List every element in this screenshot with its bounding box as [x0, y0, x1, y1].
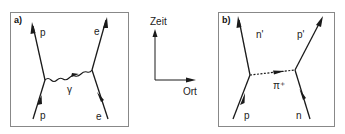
proton-out-line-b: [295, 20, 321, 70]
panel-b-frame: [219, 13, 335, 127]
panel-a-frame: [11, 13, 129, 127]
pion-dashed-line: [250, 70, 295, 75]
label-p-in-b: p: [244, 110, 250, 121]
label-gamma: γ: [67, 84, 72, 95]
time-axis-label: Zeit: [150, 16, 167, 27]
spacetime-axes: Zeit Ort: [150, 16, 197, 97]
label-p-out: p: [40, 27, 46, 38]
panel-b: b) n' p p' n π⁺: [219, 13, 335, 127]
label-e-out: e: [94, 26, 100, 37]
electron-in-arrow-icon: [97, 92, 104, 102]
label-p-in: p: [40, 110, 46, 121]
electron-out-arrow-icon: [103, 17, 108, 28]
label-n-in: n: [296, 110, 302, 121]
neutron-out-arrow-icon: [237, 16, 242, 28]
feynman-diagrams-figure: a) p p e e γ Zeit Ort b): [0, 0, 345, 134]
time-axis-arrow-icon: [153, 29, 158, 37]
panel-a: a) p p e e γ: [11, 13, 129, 127]
photon-wavy-line: [45, 70, 92, 82]
pion-arrow-icon: [273, 71, 285, 75]
space-axis-label: Ort: [183, 86, 197, 97]
label-n-prime: n': [256, 29, 264, 40]
neutron-in-arrow-icon: [300, 89, 307, 100]
panel-a-label: a): [14, 15, 22, 25]
proton-out-arrow-icon: [31, 22, 36, 34]
space-axis-arrow-icon: [186, 78, 196, 83]
proton-out-arrow-icon-b: [316, 16, 323, 27]
label-p-prime: p': [297, 29, 305, 40]
panel-b-label: b): [222, 15, 231, 25]
neutron-out-line: [239, 20, 250, 75]
label-e-in: e: [96, 111, 102, 122]
label-pion: π⁺: [273, 80, 285, 91]
